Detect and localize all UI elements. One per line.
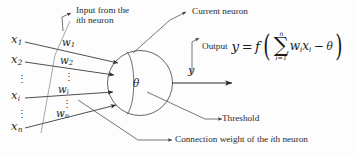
threshold-leader xyxy=(147,92,222,119)
formula-weight-term: wi xyxy=(290,39,303,54)
formula-input-term: xi xyxy=(302,39,311,54)
connection-weight-leader xyxy=(78,100,172,140)
formula-function-f: f xyxy=(255,38,260,54)
formula-paren-open: ( xyxy=(263,34,270,57)
formula-sum-lower-limit: i=1 xyxy=(276,55,287,61)
neuron-threshold-symbol: θ xyxy=(133,78,139,89)
input-label-xi: xi xyxy=(11,89,20,103)
formula-y: y xyxy=(232,38,240,54)
formula-theta: θ xyxy=(326,40,332,52)
input-vertical-dots-2: ⋮ xyxy=(17,111,27,117)
output-formula: Output y = f ( n ∑ i=1 wi xi − θ ) xyxy=(202,31,344,61)
formula-paren-close: ) xyxy=(335,34,342,57)
neuron-body-shape xyxy=(108,51,173,116)
formula-sigma-glyph: ∑ xyxy=(274,37,289,54)
input-label-x2: x2 xyxy=(11,53,23,67)
current-neuron-leader xyxy=(133,12,186,53)
weight-label-wn: wn xyxy=(56,108,69,121)
formula-minus: − xyxy=(314,39,324,53)
annotation-connection-weight: Connection weight of the ith neuron xyxy=(175,135,308,145)
annotation-input-from-ith-neuron: Input from the ith neuron xyxy=(76,6,129,26)
annotation-current-neuron: Current neuron xyxy=(192,7,248,17)
weight-vertical-dots-1: ⋮ xyxy=(64,74,74,80)
input-label-xn: xn xyxy=(11,120,23,134)
formula-output-word: Output xyxy=(202,41,228,51)
formula-summation: n ∑ i=1 xyxy=(274,31,289,61)
output-symbol-y: y xyxy=(188,64,195,76)
input-label-x1: x1 xyxy=(11,33,23,47)
weight-label-w1: w1 xyxy=(62,37,75,50)
neuron-diagram-figure: x1 x2 ⋮ xi ⋮ xn w1 w2 ⋮ wi ⋮ wn θ y Inpu… xyxy=(0,0,356,157)
weight-label-w2: w2 xyxy=(60,55,73,68)
annotation-threshold: Threshold xyxy=(222,114,259,124)
input-vertical-dots-1: ⋮ xyxy=(17,76,27,82)
weight-vertical-dots-2: ⋮ xyxy=(62,101,72,107)
formula-equals: = xyxy=(242,39,253,54)
weight-label-wi: wi xyxy=(58,84,69,97)
